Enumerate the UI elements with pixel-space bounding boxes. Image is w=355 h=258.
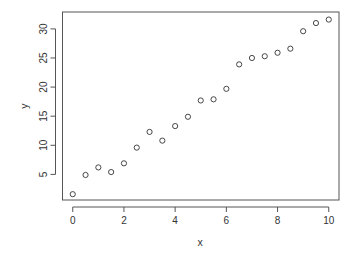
y-tick-label: 15 [38,110,49,122]
y-tick-label: 10 [38,139,49,151]
x-tick-label: 2 [121,215,127,226]
y-tick-label: 25 [38,52,49,64]
y-tick-label: 5 [38,171,49,177]
y-axis-title: y [18,103,30,109]
x-tick-label: 8 [275,215,281,226]
x-axis-title: x [197,236,203,248]
x-tick-label: 10 [323,215,335,226]
x-tick-label: 0 [70,215,76,226]
scatter-plot: 0246810 51015202530 x y [0,0,355,258]
y-tick-label: 30 [38,23,49,35]
x-tick-label: 4 [172,215,178,226]
y-tick-label: 20 [38,81,49,93]
x-tick-label: 6 [224,215,230,226]
